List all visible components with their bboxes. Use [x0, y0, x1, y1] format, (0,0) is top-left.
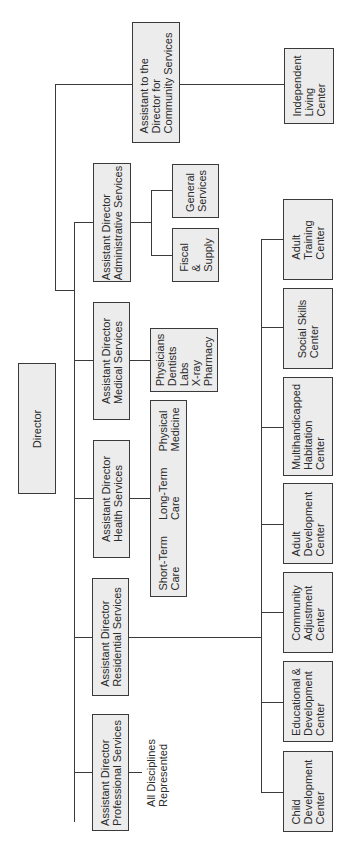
connector-admin-sub-vert: [151, 190, 152, 256]
connector-residential-trunk: [261, 239, 262, 793]
social-skills-label: Social Skills Center: [296, 299, 320, 358]
connector-multihandicapped: [261, 427, 283, 428]
connector-fiscal-supply: [151, 255, 172, 256]
connector-adult-training: [261, 239, 283, 240]
independent-living-box: Independent Living Center: [284, 48, 334, 124]
connector-professional: [74, 772, 92, 773]
residential-services-label: Assistant Director Residential Services: [99, 587, 123, 687]
connector-admin-sub: [131, 222, 152, 223]
adult-training-box: Adult Training Center: [283, 199, 333, 280]
fiscal-supply-box: Fiscal & Supply: [172, 228, 219, 282]
health-services-label: Assistant Director Health Services: [100, 456, 124, 542]
health-services-box: Assistant Director Health Services: [93, 440, 130, 558]
residential-services-box: Assistant Director Residential Services: [92, 578, 129, 696]
connector-child-development: [261, 792, 283, 793]
adult-development-label: Adult Development Center: [290, 491, 326, 556]
educational-development-label: Educational & Development Center: [290, 668, 326, 736]
connector-social-skills: [261, 327, 283, 328]
connector-educational: [261, 702, 283, 703]
connector-general-services: [151, 190, 172, 191]
adult-training-label: Adult Training Center: [290, 220, 326, 259]
child-development-box: Child Development Center: [283, 751, 333, 832]
community-adjustment-label: Community Adjustment Center: [290, 585, 326, 641]
connector-health: [74, 498, 93, 499]
educational-development-box: Educational & Development Center: [283, 661, 333, 742]
professional-services-box: Assistant Director Professional Services: [92, 714, 129, 831]
connector-adult-development: [261, 524, 283, 525]
connector-trunk-join: [55, 290, 75, 291]
professional-services-label: Assistant Director Professional Services: [99, 720, 123, 826]
connector-health-units: [130, 498, 150, 499]
director-box: Director: [18, 363, 56, 494]
connector-community-adjustment: [261, 612, 283, 613]
physicians-label: Physicians Dentists Labs X-ray Pharmacy: [154, 334, 214, 387]
connector-all-disciplines: [129, 772, 142, 773]
connector-residential: [74, 637, 92, 638]
connector-trunk-main: [74, 222, 75, 822]
connector-trunk-upper: [55, 84, 56, 291]
connector-independent-living: [180, 84, 284, 85]
general-services-box: General Services: [172, 164, 219, 218]
connector-community: [55, 84, 132, 85]
medical-services-box: Assistant Director Medical Services: [93, 302, 130, 420]
child-development-label: Child Development Center: [290, 759, 326, 824]
director-label: Director: [31, 409, 43, 448]
connector-residential-units: [129, 637, 262, 638]
physical-medicine-label: Physical Medicine: [157, 407, 181, 451]
community-services-label: Assistant to the Director for Community …: [138, 32, 174, 133]
community-services-box: Assistant to the Director for Community …: [132, 22, 180, 143]
health-units-group: Short-Term Care Long-Term Care Physical …: [157, 407, 181, 590]
social-skills-box: Social Skills Center: [283, 288, 333, 369]
medical-services-label: Assistant Director Medical Services: [100, 318, 124, 404]
connector-medical: [74, 360, 93, 361]
multihandicapped-label: Multihandicapped Habitation Center: [290, 383, 326, 469]
administrative-services-label: Assistant Director Administrative Servic…: [100, 165, 124, 279]
all-disciplines-note: All Disciplines Represented: [144, 738, 170, 808]
health-units-box: Short-Term Care Long-Term Care Physical …: [150, 400, 187, 597]
all-disciplines-label: All Disciplines Represented: [145, 739, 169, 807]
general-services-label: General Services: [184, 170, 208, 212]
community-adjustment-box: Community Adjustment Center: [283, 572, 333, 653]
connector-physicians: [130, 360, 150, 361]
physicians-box: Physicians Dentists Labs X-ray Pharmacy: [150, 328, 218, 392]
multihandicapped-box: Multihandicapped Habitation Center: [283, 377, 333, 476]
administrative-services-box: Assistant Director Administrative Servic…: [93, 163, 131, 282]
connector-administrative: [74, 222, 93, 223]
long-term-care-label: Long-Term Care: [157, 467, 181, 520]
independent-living-label: Independent Living Center: [291, 55, 327, 116]
fiscal-supply-label: Fiscal & Supply: [178, 238, 214, 272]
adult-development-box: Adult Development Center: [283, 483, 333, 564]
short-term-care-label: Short-Term Care: [157, 536, 181, 590]
